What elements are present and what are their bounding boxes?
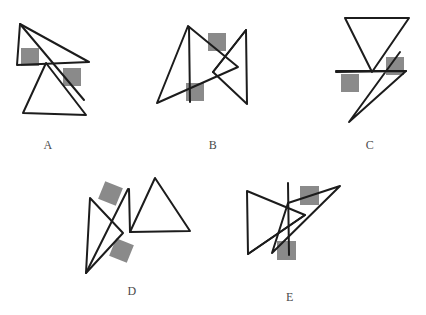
figure-e-vertical-line — [288, 183, 289, 255]
figure-label-b: B — [203, 138, 223, 152]
figure-b-square-upper — [208, 33, 226, 51]
figure-label-d: D — [122, 284, 142, 298]
figure-b-vertical-line — [189, 27, 190, 102]
figure-e — [247, 183, 340, 260]
figure-sheet: A B C D E — [0, 0, 426, 315]
figure-label-c: C — [360, 138, 380, 152]
figure-b — [157, 26, 247, 104]
figure-c-square-left — [341, 74, 359, 92]
figure-e-square-lower-left — [277, 241, 296, 260]
figure-panels — [0, 0, 426, 315]
figure-d — [86, 178, 190, 273]
figure-label-a: A — [38, 138, 58, 152]
figure-d-right-triangle — [130, 178, 190, 232]
figure-d-right-vertical — [129, 189, 130, 232]
figure-canvas — [0, 0, 426, 315]
figure-c — [336, 18, 409, 122]
figure-d-square-upper — [98, 181, 123, 206]
figure-label-e: E — [280, 290, 300, 304]
figure-a — [17, 24, 89, 115]
figure-d-square-lower — [109, 238, 134, 263]
